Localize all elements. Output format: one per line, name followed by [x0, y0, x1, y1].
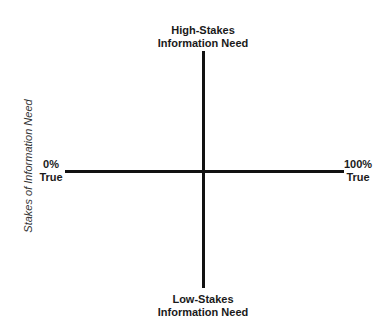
left-label-line2: True: [36, 171, 66, 184]
right-label-line1: 100%: [340, 158, 376, 171]
y-axis-title: Stakes of Information Need: [22, 99, 34, 232]
left-label-line1: 0%: [36, 158, 66, 171]
vertical-axis-line: [202, 51, 205, 288]
top-label: High-Stakes Information Need: [143, 24, 263, 50]
bottom-label: Low-Stakes Information Need: [143, 293, 263, 319]
right-label: 100% True: [340, 158, 376, 184]
bottom-label-line2: Information Need: [143, 306, 263, 319]
top-label-line1: High-Stakes: [143, 24, 263, 37]
left-label: 0% True: [36, 158, 66, 184]
right-label-line2: True: [340, 171, 376, 184]
bottom-label-line1: Low-Stakes: [143, 293, 263, 306]
top-label-line2: Information Need: [143, 37, 263, 50]
